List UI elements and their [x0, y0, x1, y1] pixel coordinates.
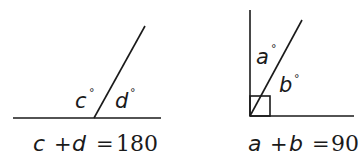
svg-text:+: +: [270, 132, 288, 156]
svg-text:b: b: [289, 131, 303, 156]
angle-label-a: a °: [256, 42, 277, 69]
svg-text:c: c: [75, 89, 87, 113]
equation-supplementary: c + d = 180: [33, 131, 158, 156]
svg-text:=: =: [312, 132, 330, 156]
supplementary-angles-figure: c ° d ° c + d = 180: [13, 26, 161, 156]
angle-label-b: b °: [279, 72, 300, 97]
svg-text:a: a: [256, 45, 269, 69]
svg-text:90: 90: [331, 131, 359, 156]
svg-text:a: a: [248, 131, 261, 156]
svg-text:d: d: [115, 89, 129, 113]
complementary-angles-figure: a ° b ° a + b = 90: [248, 10, 359, 156]
svg-text:+: +: [54, 132, 72, 156]
angle-relationships-diagram: c ° d ° c + d = 180 a ° b ° a +: [0, 0, 361, 164]
svg-text:d: d: [72, 131, 87, 156]
svg-text:°: °: [294, 72, 300, 85]
svg-text:°: °: [130, 86, 136, 99]
angle-label-d: d °: [115, 86, 136, 113]
equation-complementary: a + b = 90: [248, 131, 359, 156]
svg-text:180: 180: [116, 131, 158, 156]
svg-text:°: °: [89, 86, 95, 99]
svg-text:=: =: [96, 132, 114, 156]
svg-text:c: c: [33, 131, 45, 156]
svg-text:°: °: [271, 42, 277, 55]
svg-text:b: b: [279, 73, 292, 97]
angle-label-c: c °: [75, 86, 95, 113]
